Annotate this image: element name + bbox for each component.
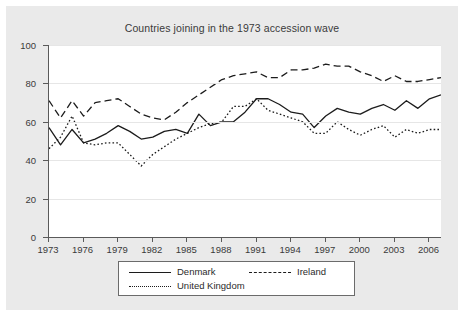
legend-swatch-dotted xyxy=(129,286,171,287)
gridline-y-100 xyxy=(49,45,441,46)
y-tick-label: 60 xyxy=(25,116,36,127)
y-tick-mark-100 xyxy=(43,45,48,46)
y-tick-label: 100 xyxy=(20,40,36,51)
x-tick-mark-1997 xyxy=(325,238,326,242)
x-tick-mark-1976 xyxy=(83,238,84,242)
gridline-y-20 xyxy=(49,199,441,200)
y-tick-mark-80 xyxy=(43,83,48,84)
gridline-y-60 xyxy=(49,122,441,123)
chart-legend: DenmarkIrelandUnited Kingdom xyxy=(118,261,355,296)
x-axis-line xyxy=(48,237,441,238)
legend-swatch-dashed xyxy=(249,272,291,273)
plot-area xyxy=(48,45,441,237)
x-tick-mark-2000 xyxy=(359,238,360,242)
y-tick-mark-20 xyxy=(43,199,48,200)
chart-title: Countries joining in the 1973 accession … xyxy=(0,22,464,34)
y-tick-label: 40 xyxy=(25,155,36,166)
y-axis: 020406080100 xyxy=(0,45,48,237)
x-tick-label: 1973 xyxy=(37,244,58,255)
x-tick-label: 1997 xyxy=(314,244,335,255)
series-line-denmark xyxy=(49,95,441,145)
y-tick-mark-40 xyxy=(43,160,48,161)
x-tick-mark-2006 xyxy=(428,238,429,242)
x-tick-label: 1988 xyxy=(210,244,231,255)
x-tick-label: 1985 xyxy=(176,244,197,255)
chart-screenshot: Countries joining in the 1973 accession … xyxy=(0,0,464,320)
legend-label: United Kingdom xyxy=(177,279,245,293)
x-tick-mark-1988 xyxy=(221,238,222,242)
x-tick-mark-1985 xyxy=(186,238,187,242)
x-tick-mark-1973 xyxy=(48,238,49,242)
x-tick-label: 1976 xyxy=(72,244,93,255)
x-tick-mark-1991 xyxy=(256,238,257,242)
plot-lines xyxy=(49,45,441,237)
x-tick-label: 2006 xyxy=(418,244,439,255)
y-tick-label: 80 xyxy=(25,78,36,89)
x-tick-label: 1982 xyxy=(141,244,162,255)
y-tick-mark-60 xyxy=(43,122,48,123)
x-tick-label: 1979 xyxy=(107,244,128,255)
x-tick-mark-1994 xyxy=(290,238,291,242)
x-tick-label: 2003 xyxy=(383,244,404,255)
x-tick-mark-2003 xyxy=(394,238,395,242)
y-tick-label: 0 xyxy=(31,232,36,243)
gridline-y-40 xyxy=(49,160,441,161)
legend-label: Denmark xyxy=(177,265,216,279)
x-tick-mark-1982 xyxy=(152,238,153,242)
x-tick-mark-1979 xyxy=(117,238,118,242)
legend-label: Ireland xyxy=(297,265,326,279)
x-tick-label: 2000 xyxy=(349,244,370,255)
gridline-y-80 xyxy=(49,83,441,84)
x-tick-label: 1991 xyxy=(245,244,266,255)
y-tick-label: 20 xyxy=(25,193,36,204)
legend-swatch-solid xyxy=(129,272,171,273)
x-tick-label: 1994 xyxy=(280,244,301,255)
